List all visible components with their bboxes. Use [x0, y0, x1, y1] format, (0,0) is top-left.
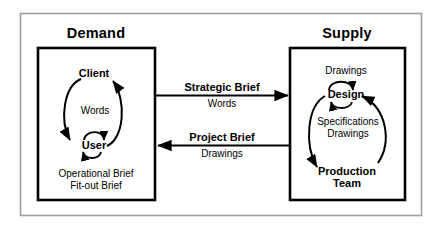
strategic-brief-subtitle: Words [208, 99, 237, 110]
diagram-canvas: Demand Supply Client Words User Operatio… [0, 0, 440, 233]
project-brief-subtitle: Drawings [201, 149, 243, 160]
supply-title: Supply [322, 26, 372, 42]
demand-footnote-operational: Operational Brief [58, 168, 133, 180]
demand-cycle-label: Words [81, 106, 110, 117]
node-client-label: Client [79, 68, 110, 80]
project-brief-title: Project Brief [189, 132, 254, 144]
supply-cycle-specifications: Specifications [317, 117, 379, 128]
supply-cycle-drawings: Drawings [327, 129, 369, 140]
demand-title: Demand [67, 26, 125, 42]
node-team-label: Team [333, 178, 361, 190]
demand-footnote-fitout: Fit-out Brief [70, 180, 122, 192]
strategic-brief-title: Strategic Brief [184, 82, 259, 94]
node-design-label: Design [328, 89, 365, 101]
node-user-label: User [82, 140, 106, 152]
supply-drawings-top-label: Drawings [325, 66, 367, 77]
